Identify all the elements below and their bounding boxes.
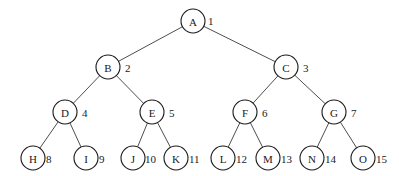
node-index-number: 6 xyxy=(262,107,268,119)
node-index-number: 5 xyxy=(169,107,175,119)
node-index-number: 15 xyxy=(376,153,388,165)
node-label: F xyxy=(242,107,248,119)
node-index-number: 10 xyxy=(145,153,157,165)
node-index-number: 13 xyxy=(281,153,293,165)
node-index-number: 11 xyxy=(189,153,200,165)
node-index-number: 12 xyxy=(236,153,247,165)
node-label: I xyxy=(84,153,88,165)
node-index-number: 14 xyxy=(325,153,337,165)
binary-tree-diagram: A1B2C3D4E5F6G7H8I9J10K11L12M13N14O15 xyxy=(0,0,399,176)
node-label: K xyxy=(172,153,180,165)
node-label: A xyxy=(189,16,197,28)
node-index-number: 7 xyxy=(351,107,357,119)
node-label: G xyxy=(330,107,338,119)
node-label: B xyxy=(104,62,111,74)
node-index-number: 1 xyxy=(208,15,214,27)
node-label: O xyxy=(359,153,367,165)
node-label: L xyxy=(220,153,227,165)
node-label: C xyxy=(282,62,289,74)
node-label: J xyxy=(131,153,136,165)
node-label: D xyxy=(61,107,69,119)
node-index-number: 9 xyxy=(99,153,105,165)
node-index-number: 3 xyxy=(303,62,309,74)
node-index-number: 4 xyxy=(82,107,88,119)
node-index-number: 8 xyxy=(46,153,52,165)
node-label: E xyxy=(149,107,156,119)
node-label: N xyxy=(308,153,316,165)
node-label: H xyxy=(29,153,37,165)
node-label: M xyxy=(263,153,273,165)
node-index-number: 2 xyxy=(125,62,131,74)
